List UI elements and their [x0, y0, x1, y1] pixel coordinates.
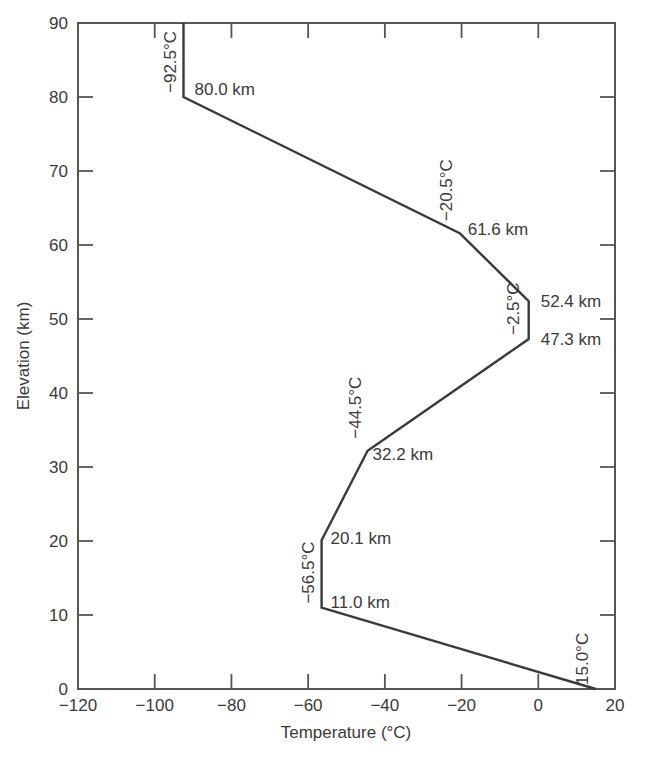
elevation-annotation: 20.1 km — [331, 529, 391, 548]
y-tick-label: 60 — [49, 236, 68, 255]
temperature-annotation: −56.5°C — [299, 542, 318, 604]
x-axis-label: Temperature (°C) — [281, 723, 412, 742]
y-axis-label: Elevation (km) — [14, 302, 33, 411]
axis-ticks — [78, 23, 615, 689]
y-tick-label: 40 — [49, 384, 68, 403]
y-tick-label: 80 — [49, 88, 68, 107]
chart-annotations: 15.0°C−56.5°C−44.5°C−2.5°C−20.5°C−92.5°C… — [161, 31, 602, 685]
y-tick-label: 20 — [49, 532, 68, 551]
x-tick-label: −60 — [294, 696, 323, 715]
x-tick-label: −40 — [370, 696, 399, 715]
x-tick-label: −80 — [217, 696, 246, 715]
y-tick-label: 30 — [49, 458, 68, 477]
temperature-profile-line — [184, 23, 596, 689]
chart-axes — [78, 23, 615, 689]
chart-canvas: −120−100−80−60−40−2002001020304050607080… — [0, 0, 646, 759]
temperature-annotation: −92.5°C — [161, 31, 180, 93]
elevation-annotation: 61.6 km — [468, 220, 528, 239]
y-tick-label: 50 — [49, 310, 68, 329]
temperature-annotation: −2.5°C — [504, 282, 523, 335]
elevation-annotation: 47.3 km — [541, 330, 601, 349]
elevation-annotation: 11.0 km — [331, 593, 390, 612]
elevation-annotation: 32.2 km — [373, 445, 433, 464]
plot-frame — [78, 23, 615, 689]
x-tick-label: 0 — [534, 696, 543, 715]
x-tick-label: −100 — [136, 696, 174, 715]
x-tick-label: −20 — [447, 696, 476, 715]
temperature-annotation: −20.5°C — [437, 159, 456, 221]
y-tick-label: 0 — [59, 680, 68, 699]
x-tick-label: 20 — [606, 696, 625, 715]
elevation-annotation: 80.0 km — [195, 80, 255, 99]
temperature-annotation: 15.0°C — [573, 633, 592, 685]
y-tick-label: 90 — [49, 14, 68, 33]
y-tick-label: 70 — [49, 162, 68, 181]
temperature-annotation: −44.5°C — [346, 377, 365, 439]
elevation-annotation: 52.4 km — [541, 292, 601, 311]
y-tick-label: 10 — [49, 606, 68, 625]
